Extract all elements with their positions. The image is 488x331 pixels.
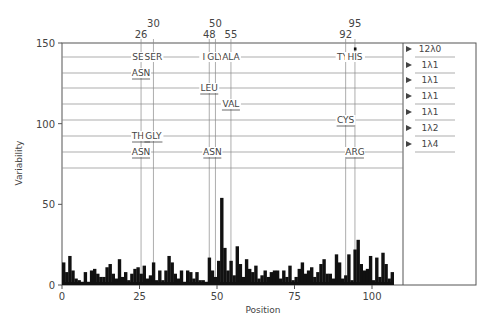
residue-label: ASN [132, 68, 151, 78]
bar [171, 262, 174, 285]
lambda-label: 1λ2 [422, 123, 439, 133]
bar [347, 254, 350, 285]
top-position-label: 30 [147, 18, 160, 29]
position-marker-lines [141, 39, 355, 285]
bar [152, 262, 155, 285]
y-axis-title: Variability [14, 140, 24, 185]
bar [322, 259, 325, 285]
residue-label: ASN [203, 147, 222, 157]
x-axis: 0255075100 [59, 285, 382, 302]
top-position-label: 48 [203, 29, 216, 40]
bar [369, 256, 372, 285]
bar [239, 264, 242, 285]
y-tick-label: 150 [36, 38, 55, 49]
lambda-label: 1λ1 [422, 75, 439, 85]
top-position-label: 95 [349, 18, 362, 29]
bar [167, 256, 170, 285]
bar [68, 256, 71, 285]
residue-label: SER [145, 52, 163, 62]
residue-label: LEU [201, 83, 218, 93]
bars [62, 47, 394, 285]
x-tick-label: 100 [362, 291, 381, 302]
residue-label: VAL [223, 99, 240, 109]
bar [208, 258, 211, 285]
bar [223, 248, 226, 285]
bar [62, 262, 65, 285]
residue-label: ARG [345, 147, 364, 157]
row-arrow-icon [406, 77, 412, 83]
lambda-label: 1λ1 [422, 107, 439, 117]
row-arrow-icon [406, 62, 412, 68]
bar [229, 261, 232, 285]
y-tick-label: 100 [36, 119, 55, 130]
bar [118, 259, 121, 285]
x-axis-title: Position [245, 305, 280, 315]
bar [236, 246, 239, 285]
plot-frame [62, 43, 476, 285]
row-arrow-icon [406, 141, 412, 147]
row-arrow-icon [406, 46, 412, 52]
bar [384, 264, 387, 285]
bar [319, 264, 322, 285]
y-tick-label: 0 [49, 280, 55, 291]
residue-label: HIS [347, 52, 362, 62]
top-position-label: 92 [339, 29, 352, 40]
bar [360, 264, 363, 285]
bar [353, 250, 356, 285]
baseline [62, 282, 394, 285]
residue-labels: SERSERILEGLYALATYRHISASNLEUVALCYSTHRGLYA… [131, 52, 365, 158]
top-position-label: 50 [209, 18, 222, 29]
plot-border [62, 43, 476, 285]
top-position-label: 26 [135, 29, 148, 40]
lambda-label: 1λ4 [422, 139, 439, 149]
x-tick-label: 25 [133, 291, 146, 302]
lambda-label: 1λ1 [422, 60, 439, 70]
variability-chart: 050100150 0255075100 26304850559295 SERS… [0, 0, 488, 331]
bar [109, 264, 112, 285]
top-position-label: 55 [225, 29, 238, 40]
bar [245, 259, 248, 285]
bar [217, 261, 220, 285]
residue-label: CYS [337, 115, 355, 125]
lambda-label: 1λ1 [422, 91, 439, 101]
x-tick-label: 0 [59, 291, 65, 302]
bar [381, 253, 384, 285]
row-arrow-icon [406, 125, 412, 131]
bar [357, 240, 360, 285]
peak-marker [354, 47, 357, 50]
top-position-labels: 26304850559295 [135, 18, 362, 40]
bar [301, 262, 304, 285]
lambda-legend: 12λ01λ11λ11λ11λ11λ21λ4 [406, 44, 455, 152]
row-arrow-icon [406, 93, 412, 99]
bar [220, 198, 223, 285]
bar [335, 254, 338, 285]
x-tick-label: 50 [211, 291, 224, 302]
residue-label: ALA [222, 52, 240, 62]
bar [375, 258, 378, 285]
x-tick-label: 75 [288, 291, 301, 302]
bar [338, 262, 341, 285]
residue-label: GLY [145, 131, 162, 141]
y-axis: 050100150 [36, 38, 62, 291]
residue-label: ASN [132, 147, 151, 157]
y-tick-label: 50 [42, 199, 55, 210]
lambda-label: 12λ0 [419, 44, 442, 54]
row-arrow-icon [406, 109, 412, 115]
